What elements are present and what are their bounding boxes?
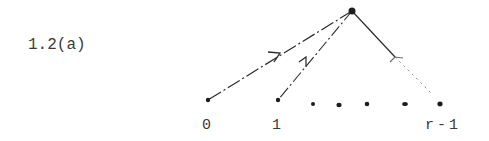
arrowhead-icon (268, 52, 280, 62)
leaf-node-1 (276, 98, 280, 102)
leaf-node-0 (206, 98, 210, 102)
leaf-label-0: 0 (202, 118, 211, 133)
root-node (349, 8, 356, 15)
edge-root-to-r-1 (352, 11, 432, 94)
edge-root-to-1 (278, 11, 352, 100)
leaf-label-1: 1 (272, 118, 281, 133)
ellipsis-dots (311, 102, 408, 108)
diagram-canvas: 1.2(a) (0, 0, 489, 141)
arrowhead-icon (299, 57, 306, 67)
tree-diagram (0, 0, 489, 141)
arrowhead-icon (390, 57, 403, 62)
leaf-node-r-1 (437, 102, 442, 107)
edge-root-to-0 (208, 11, 352, 100)
leaf-label-r-1: r-1 (425, 118, 461, 133)
